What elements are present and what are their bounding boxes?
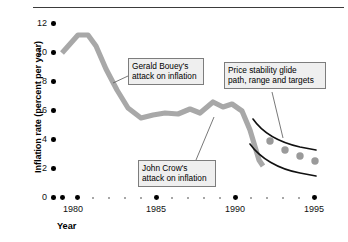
leader-line-bouey: [113, 76, 128, 83]
target-dot-1995: [311, 157, 318, 164]
inflation-rate-line: [62, 35, 263, 166]
target-dot-1994: [296, 152, 303, 159]
chart-plot-area: [0, 0, 348, 242]
annotation-crow: John Crow's attack on inflation: [138, 160, 216, 187]
inflation-chart-figure: Inflation rate (percent per year) 12 10 …: [0, 0, 348, 242]
leader-line-glide: [272, 92, 283, 138]
target-dot-1992: [266, 137, 273, 144]
leader-line-crow: [196, 117, 214, 160]
annotation-glide-path: Price stability glide path, range and ta…: [224, 62, 326, 89]
annotation-bouey: Gerald Bouey's attack on inflation: [128, 58, 204, 85]
target-dot-1993: [281, 146, 288, 153]
glide-path-upper-bound: [253, 119, 316, 150]
